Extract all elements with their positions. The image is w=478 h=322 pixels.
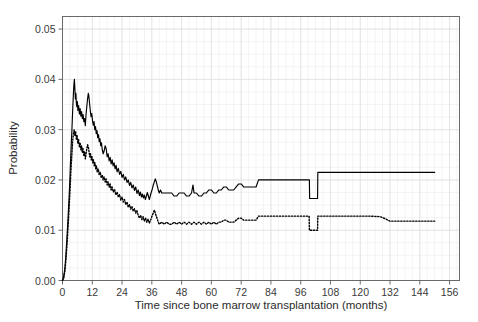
- x-tick-label-24: 24: [116, 286, 128, 298]
- x-tick-label-96: 96: [295, 286, 307, 298]
- y-tick-label-0.01: 0.01: [35, 224, 56, 236]
- x-tick-label-144: 144: [411, 286, 429, 298]
- x-tick-label-120: 120: [351, 286, 369, 298]
- y-tick-label-0.04: 0.04: [35, 73, 56, 85]
- y-tick-label-0.03: 0.03: [35, 124, 56, 136]
- x-tick-label-12: 12: [86, 286, 98, 298]
- y-tick-label-0.05: 0.05: [35, 23, 56, 35]
- y-tick-label-0.02: 0.02: [35, 174, 56, 186]
- x-tick-label-156: 156: [441, 286, 459, 298]
- x-axis-title: Time since bone marrow transplantation (…: [135, 299, 388, 311]
- y-tick-label-0.00: 0.00: [35, 275, 56, 287]
- x-tick-label-72: 72: [235, 286, 247, 298]
- chart-figure: 01224364860728496108120132144156 0.000.0…: [0, 0, 478, 322]
- x-tick-label-84: 84: [265, 286, 277, 298]
- y-axis-title: Probability: [7, 121, 19, 175]
- x-tick-label-36: 36: [146, 286, 158, 298]
- x-tick-label-132: 132: [381, 286, 399, 298]
- probability-vs-time-chart: 01224364860728496108120132144156 0.000.0…: [0, 0, 478, 322]
- x-tick-label-60: 60: [206, 286, 218, 298]
- x-tick-label-48: 48: [176, 286, 188, 298]
- x-tick-label-0: 0: [60, 286, 66, 298]
- x-tick-label-108: 108: [322, 286, 340, 298]
